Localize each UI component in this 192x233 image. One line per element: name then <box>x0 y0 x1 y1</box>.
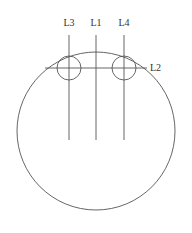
diagram-canvas: L3 L1 L4 L2 <box>0 0 192 233</box>
label-l1: L1 <box>90 17 101 28</box>
label-l2: L2 <box>150 62 161 73</box>
label-l4: L4 <box>118 17 129 28</box>
label-l3: L3 <box>63 17 74 28</box>
